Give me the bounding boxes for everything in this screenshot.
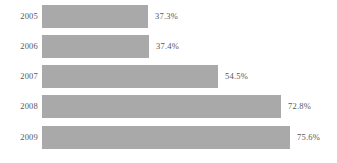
category-label-2007: 2007 <box>0 65 38 88</box>
bar-track: 37.3% <box>42 5 148 28</box>
value-label-2007: 54.5% <box>225 65 248 88</box>
bar-row: 2005 37.3% <box>0 5 337 28</box>
bar-row: 2007 54.5% <box>0 65 337 88</box>
bar-2006[interactable] <box>42 35 149 58</box>
category-label-2008: 2008 <box>0 95 38 118</box>
value-label-2009: 75.6% <box>297 126 320 149</box>
value-label-2006: 37.4% <box>156 35 179 58</box>
bar-row: 2006 37.4% <box>0 35 337 58</box>
bar-track: 72.8% <box>42 95 281 118</box>
bar-2007[interactable] <box>42 65 218 88</box>
chart-plot-area: 2005 37.3% 2006 37.4% 2007 54.5% 2008 <box>0 0 337 163</box>
bar-chart: 2005 37.3% 2006 37.4% 2007 54.5% 2008 <box>0 0 337 163</box>
category-label-2006: 2006 <box>0 35 38 58</box>
bar-track: 75.6% <box>42 126 290 149</box>
value-label-2008: 72.8% <box>288 95 311 118</box>
value-label-2005: 37.3% <box>155 5 178 28</box>
bar-2009[interactable] <box>42 126 290 149</box>
bar-2005[interactable] <box>42 5 148 28</box>
bar-row: 2008 72.8% <box>0 95 337 118</box>
category-label-2009: 2009 <box>0 126 38 149</box>
bar-track: 37.4% <box>42 35 149 58</box>
category-label-2005: 2005 <box>0 5 38 28</box>
bar-track: 54.5% <box>42 65 218 88</box>
bar-row: 2009 75.6% <box>0 126 337 149</box>
bar-2008[interactable] <box>42 95 281 118</box>
